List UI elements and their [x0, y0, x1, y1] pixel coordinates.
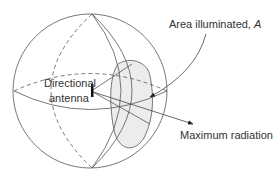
max-radiation-label: Maximum radiation — [180, 129, 273, 141]
meridian-back — [51, 14, 92, 168]
area-illuminated-label: Area illuminated, A — [169, 18, 261, 30]
antenna-label-line1: Directional — [44, 77, 96, 89]
antenna-label-line2: antenna — [49, 92, 89, 104]
area-text: Area illuminated, — [169, 18, 254, 30]
diagram-canvas: Directional antenna Area illuminated, A … — [0, 0, 280, 185]
area-symbol: A — [254, 18, 261, 30]
